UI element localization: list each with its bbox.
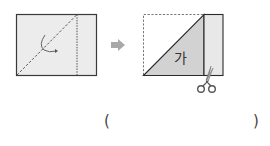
triangle-label: 가 [174,50,187,66]
right-strip [204,15,223,76]
answer-open-paren: ( [104,114,110,129]
folding-problem-diagram: 가 ( ) [0,0,270,146]
triangle-ga [144,15,205,76]
left-paper-figure [17,15,97,76]
answer-blank[interactable] [116,112,248,132]
right-paper-figure: 가 [144,15,224,93]
right-arrow-icon [111,39,125,51]
left-paper-rectangle [17,15,97,76]
answer-close-paren: ) [253,114,259,129]
